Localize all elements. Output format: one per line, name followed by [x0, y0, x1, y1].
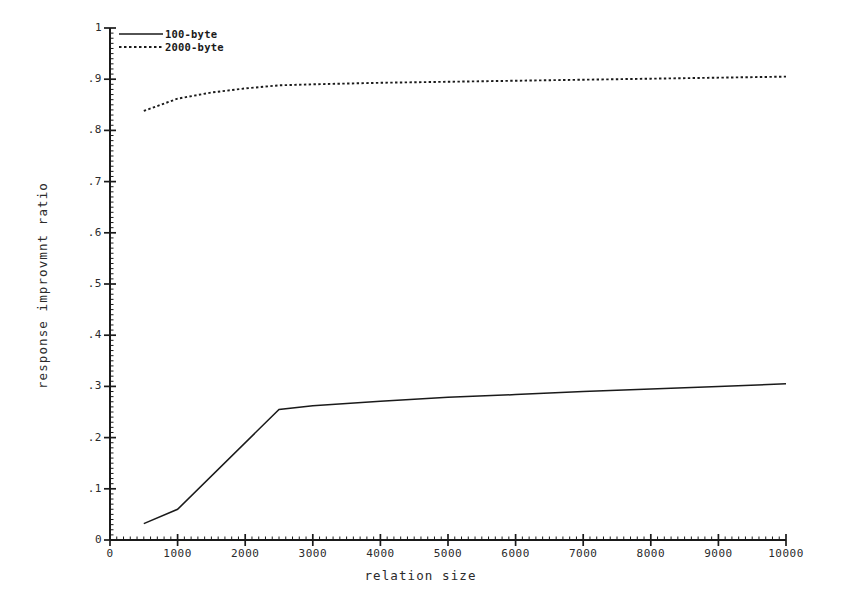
legend-label-100-byte: 100-byte	[165, 28, 217, 40]
y-tick-label: .6	[50, 226, 102, 239]
x-axis-ticks	[110, 534, 786, 546]
y-tick-label: .8	[50, 123, 102, 136]
series-line-100-byte	[144, 384, 786, 524]
data-series-layer	[144, 77, 786, 524]
y-tick-label: .9	[50, 72, 102, 85]
y-axis-title: response improvmnt ratio	[35, 156, 50, 416]
y-tick-label: .5	[50, 277, 102, 290]
y-axis-ticks	[104, 28, 116, 540]
x-tick-label: 10000	[746, 547, 826, 560]
x-axis-title: relation size	[0, 568, 841, 583]
chart-figure: 100-byte 2000-byte relation size respons…	[0, 0, 841, 609]
y-tick-label: .7	[50, 175, 102, 188]
y-tick-label: .3	[50, 379, 102, 392]
y-tick-label: .1	[50, 482, 102, 495]
y-tick-label: .2	[50, 431, 102, 444]
y-tick-label: 0	[50, 533, 102, 546]
y-tick-label: 1	[50, 21, 102, 34]
series-line-2000-byte	[144, 77, 786, 111]
y-tick-label: .4	[50, 328, 102, 341]
legend-label-2000-byte: 2000-byte	[165, 41, 224, 53]
line-chart-canvas	[0, 0, 841, 609]
